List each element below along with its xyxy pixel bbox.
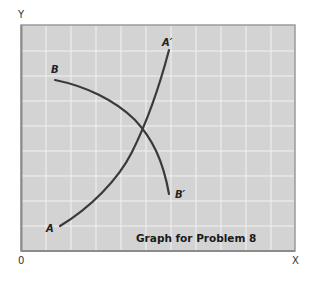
label-a: A [45,223,54,234]
x-axis-label: X [292,255,299,266]
label-a-prime: A′ [161,37,173,48]
graph-caption: Graph for Problem 8 [136,232,256,244]
label-b-prime: B′ [175,189,186,200]
label-b: B [51,64,59,75]
plot-area [21,25,295,251]
origin-label: 0 [18,255,24,266]
graph: Y X 0 A A′ B B′ Graph for Problem 8 [0,0,311,281]
y-axis-label: Y [17,9,25,20]
